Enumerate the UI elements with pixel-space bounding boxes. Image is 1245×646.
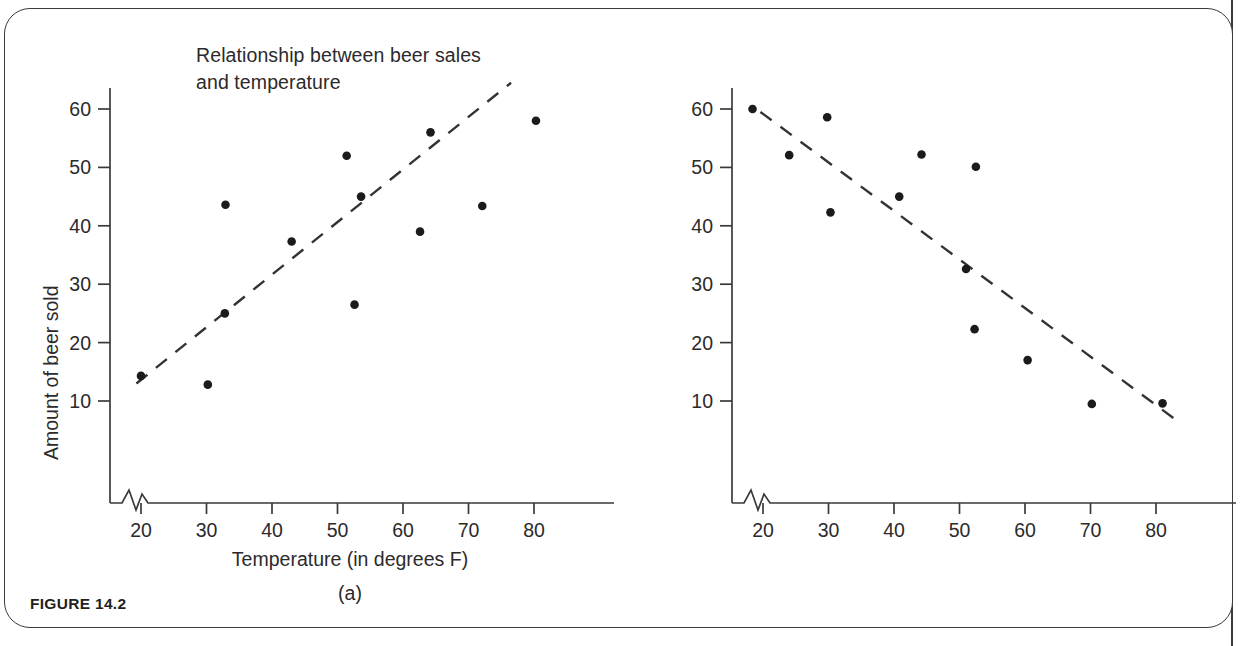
svg-text:60: 60	[1014, 519, 1036, 541]
svg-text:40: 40	[883, 519, 905, 541]
svg-text:50: 50	[327, 519, 349, 541]
svg-text:40: 40	[69, 215, 91, 237]
figure-caption: FIGURE 14.2	[30, 595, 126, 613]
chart-panel-b: Relationship between coffee sales and te…	[622, 0, 1244, 646]
svg-text:20: 20	[691, 332, 713, 354]
svg-text:50: 50	[69, 156, 91, 178]
svg-text:30: 30	[818, 519, 840, 541]
svg-text:80: 80	[1145, 519, 1167, 541]
svg-text:40: 40	[261, 519, 283, 541]
svg-text:70: 70	[1080, 519, 1102, 541]
scatter-plot-a: 10203040506020304050607080	[0, 0, 622, 646]
svg-text:30: 30	[691, 273, 713, 295]
svg-text:20: 20	[130, 519, 152, 541]
svg-text:30: 30	[196, 519, 218, 541]
svg-text:30: 30	[69, 273, 91, 295]
chart-panel-a: Relationship between beer sales and temp…	[0, 0, 622, 646]
svg-text:80: 80	[523, 519, 545, 541]
svg-text:10: 10	[69, 390, 91, 412]
scatter-plot-b: 10203040506020304050607080	[622, 0, 1244, 646]
svg-text:10: 10	[691, 390, 713, 412]
svg-text:70: 70	[458, 519, 480, 541]
svg-text:60: 60	[392, 519, 414, 541]
svg-text:40: 40	[691, 215, 713, 237]
svg-text:20: 20	[69, 332, 91, 354]
svg-text:60: 60	[69, 98, 91, 120]
svg-text:50: 50	[949, 519, 971, 541]
svg-text:50: 50	[691, 156, 713, 178]
svg-text:20: 20	[752, 519, 774, 541]
svg-text:60: 60	[691, 98, 713, 120]
